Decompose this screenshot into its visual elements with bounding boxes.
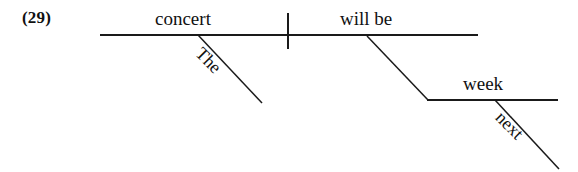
diagram-word-subject: concert: [155, 9, 211, 28]
diagram-word-complement: week: [463, 74, 503, 93]
complement-slant-rule: [367, 36, 428, 100]
diagram-word-verb: will be: [340, 9, 392, 28]
sentence-diagram-figure: (29) concert will be week The next: [0, 0, 578, 172]
